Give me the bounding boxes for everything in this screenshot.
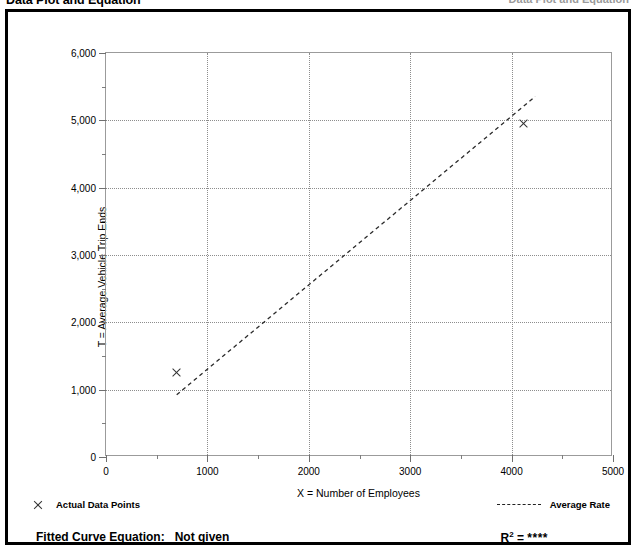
r-squared-label: R [500, 531, 509, 545]
r-squared-value: R2 = **** [500, 530, 548, 545]
y-tick-major [99, 322, 106, 323]
y-tick-label: 0 [90, 452, 96, 463]
x-tick-major [410, 455, 411, 462]
x-tick-minor [360, 455, 361, 459]
x-tick-label: 4000 [500, 466, 522, 477]
x-tick-major [309, 455, 310, 462]
fitted-curve-equation: Fitted Curve Equation: Not given [36, 530, 229, 544]
r-squared-equals: = [517, 531, 524, 545]
y-tick-major [99, 457, 106, 458]
x-tick-label: 3000 [399, 466, 421, 477]
legend-item-average-rate: Average Rate [497, 499, 610, 510]
chart-panel: T = Average Vehicle Trip Ends X = Number… [5, 9, 631, 545]
y-tick-label: 3,000 [71, 250, 96, 261]
fitted-curve-value: Not given [175, 530, 230, 544]
y-tick-label: 6,000 [71, 48, 96, 59]
dashed-line-icon [497, 504, 541, 505]
x-tick-major [613, 455, 614, 462]
x-tick-label: 5000 [602, 466, 624, 477]
legend-label-actual-points: Actual Data Points [56, 499, 140, 510]
y-tick-label: 5,000 [71, 115, 96, 126]
y-tick-major [99, 53, 106, 54]
r-squared-exponent: 2 [509, 530, 513, 539]
x-cross-icon [32, 499, 43, 510]
legend-item-actual-points: Actual Data Points [32, 499, 140, 510]
chart-legend: Actual Data Points Average Rate [8, 499, 634, 525]
y-tick-major [99, 390, 106, 391]
fitted-curve-label: Fitted Curve Equation: [36, 530, 165, 544]
page-title-right: Data Plot and Equation [509, 0, 629, 5]
x-tick-label: 2000 [298, 466, 320, 477]
y-tick-major [99, 120, 106, 121]
y-tick-major [99, 255, 106, 256]
x-tick-major [207, 455, 208, 462]
x-tick-minor [258, 455, 259, 459]
x-axis-title: X = Number of Employees [105, 487, 612, 499]
equation-row: Fitted Curve Equation: Not given R2 = **… [8, 530, 634, 549]
y-tick-major [99, 188, 106, 189]
x-tick-label: 0 [103, 466, 109, 477]
x-tick-label: 1000 [196, 466, 218, 477]
average-rate-line [106, 53, 611, 455]
y-tick-label: 4,000 [71, 182, 96, 193]
page-title: Data Plot and Equation [6, 0, 141, 7]
x-tick-major [512, 455, 513, 462]
x-tick-minor [157, 455, 158, 459]
plot-area: 01000200030004000500001,0002,0003,0004,0… [105, 52, 612, 456]
y-tick-label: 1,000 [71, 384, 96, 395]
legend-label-average-rate: Average Rate [550, 499, 610, 510]
x-tick-major [106, 455, 107, 462]
x-tick-minor [461, 455, 462, 459]
y-tick-label: 2,000 [71, 317, 96, 328]
x-tick-minor [562, 455, 563, 459]
r-squared-stars: **** [527, 531, 548, 545]
